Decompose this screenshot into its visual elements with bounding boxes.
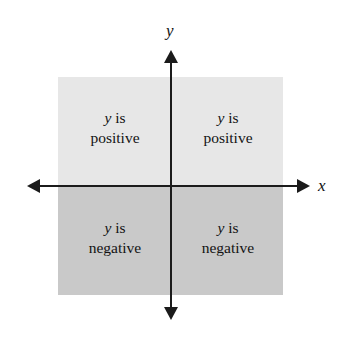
y-axis-up-arrow-icon bbox=[164, 50, 178, 63]
coordinate-plane-figure: y x y is positive y is positive y is neg… bbox=[0, 0, 341, 337]
quadrant-label-lower-left: y is negative bbox=[59, 218, 171, 259]
variable-symbol: y bbox=[217, 219, 224, 236]
x-axis-left-arrow-icon bbox=[27, 179, 40, 193]
quadrant-label-upper-left-line2: positive bbox=[59, 128, 171, 148]
variable-symbol: y bbox=[217, 109, 224, 126]
y-axis-label: y bbox=[166, 22, 174, 39]
quadrant-label-lower-left-line1: y is bbox=[59, 218, 171, 238]
y-axis-down-arrow-icon bbox=[164, 307, 178, 320]
verb-text: is bbox=[115, 109, 125, 126]
quadrant-label-lower-right: y is negative bbox=[172, 218, 284, 259]
x-axis-line bbox=[33, 185, 305, 187]
quadrant-label-upper-right-line1: y is bbox=[172, 108, 284, 128]
quadrant-label-upper-right-line2: positive bbox=[172, 128, 284, 148]
verb-text: is bbox=[228, 109, 238, 126]
quadrant-label-upper-right: y is positive bbox=[172, 108, 284, 149]
x-axis-label: x bbox=[318, 177, 326, 194]
quadrant-label-lower-right-line2: negative bbox=[172, 238, 284, 258]
variable-symbol: y bbox=[104, 219, 111, 236]
verb-text: is bbox=[115, 219, 125, 236]
verb-text: is bbox=[228, 219, 238, 236]
variable-symbol: y bbox=[104, 109, 111, 126]
quadrant-label-lower-left-line2: negative bbox=[59, 238, 171, 258]
quadrant-label-upper-left: y is positive bbox=[59, 108, 171, 149]
quadrant-label-lower-right-line1: y is bbox=[172, 218, 284, 238]
y-axis-line bbox=[170, 56, 172, 315]
quadrant-label-upper-left-line1: y is bbox=[59, 108, 171, 128]
x-axis-right-arrow-icon bbox=[297, 179, 310, 193]
